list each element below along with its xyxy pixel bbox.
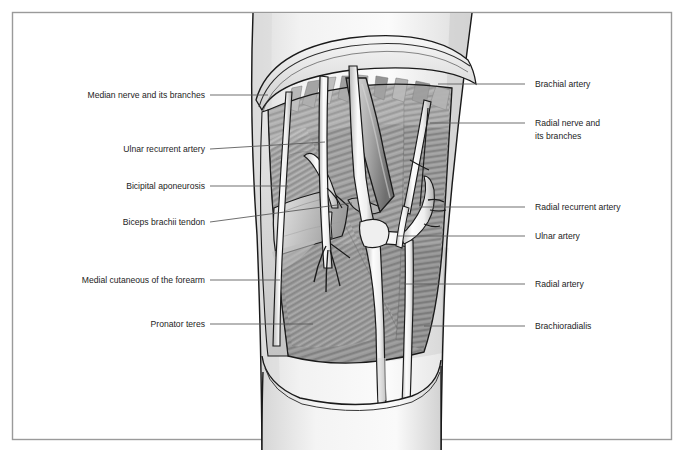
label-line: Ulnar artery — [535, 231, 581, 241]
label-brachioradialis: Brachioradialis — [535, 321, 591, 331]
label-pronator-teres: Pronator teres — [151, 319, 205, 329]
label-median-nerve: Median nerve and its branches — [87, 90, 205, 100]
label-bicipital-aponeurosis: Bicipital aponeurosis — [126, 181, 205, 191]
label-line: its branches — [535, 131, 581, 141]
label-radial-recurrent: Radial recurrent artery — [535, 202, 621, 212]
label-line: Radial artery — [535, 279, 584, 289]
label-line: Radial nerve and — [535, 118, 600, 128]
label-line: Brachioradialis — [535, 321, 591, 331]
label-line: Radial recurrent artery — [535, 202, 621, 212]
label-radial-artery: Radial artery — [535, 279, 584, 289]
illustration — [252, 13, 476, 450]
label-ulnar-artery: Ulnar artery — [535, 231, 581, 241]
anatomy-figure: Median nerve and its branchesUlnar recur… — [0, 0, 687, 451]
ulnar-artery-under-flap — [378, 358, 386, 400]
label-brachial-artery: Brachial artery — [535, 79, 591, 89]
label-biceps-tendon: Biceps brachii tendon — [123, 217, 205, 227]
label-medial-cutaneous: Medial cutaneous of the forearm — [82, 275, 205, 285]
label-line: Brachial artery — [535, 79, 591, 89]
brachial-bifurcation — [360, 219, 390, 247]
label-ulnar-recurrent: Ulnar recurrent artery — [123, 144, 205, 154]
